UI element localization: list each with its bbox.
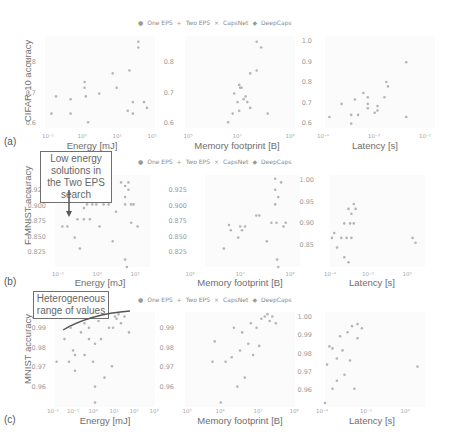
data-point [331,237,334,240]
data-point [333,232,336,235]
data-point [241,331,244,334]
data-point [367,103,370,106]
data-point [405,116,408,119]
data-point [376,105,379,108]
data-point [347,208,350,211]
data-point [94,401,97,404]
data-point [55,95,58,98]
data-point [236,101,239,104]
data-point [233,92,236,95]
data-point [249,107,252,110]
data-point [88,338,91,341]
data-point [80,331,83,334]
data-point [231,112,234,115]
data-point [108,327,111,330]
data-point [137,46,140,49]
data-point [143,101,146,104]
data-point [132,101,135,104]
data-point [353,203,356,206]
data-point [236,385,239,388]
data-point [132,203,135,206]
data-point [244,225,247,228]
data-point [387,85,390,88]
data-point [328,345,331,348]
data-point [324,402,327,405]
data-point [230,229,233,232]
data-point [124,258,127,261]
data-point [246,101,249,104]
scatter-points-layer [0,0,451,441]
data-point [351,325,354,328]
data-point [249,72,252,75]
data-point [274,188,277,191]
data-point [66,225,69,228]
data-point [276,258,279,261]
data-point [224,361,227,364]
data-point [250,322,253,325]
data-point [367,96,370,99]
data-point [124,203,127,206]
data-point [83,218,86,221]
data-point [213,340,216,343]
data-point [128,331,131,334]
data-point [280,181,283,184]
data-point [361,327,364,330]
data-point [268,320,271,323]
data-point [74,370,77,373]
data-point [255,327,258,330]
data-point [55,361,58,364]
data-point [383,96,386,99]
data-point [88,327,91,330]
data-point [136,225,139,228]
data-point [74,354,77,357]
data-point [341,349,344,352]
data-point [266,112,269,115]
data-point [111,365,114,368]
data-point [76,218,79,221]
data-point [356,323,359,326]
data-point [258,345,261,348]
data-point [350,237,353,240]
data-point [146,107,149,110]
data-point [228,224,231,227]
data-point [270,222,273,225]
data-point [258,214,261,217]
data-point [343,222,346,225]
data-point [61,225,64,228]
data-point [124,196,127,199]
data-point [350,212,353,215]
data-point [85,95,88,98]
data-point [282,225,285,228]
data-point [94,342,97,345]
data-point [87,121,90,124]
data-point [239,349,242,352]
data-point [350,122,353,125]
data-point [111,240,114,243]
data-point [242,98,245,101]
data-point [233,327,236,330]
data-point [264,315,267,318]
data-point [353,222,356,225]
data-point [252,354,255,357]
data-point [92,361,95,364]
data-point [107,203,110,206]
data-point [89,218,92,221]
data-point [343,373,346,376]
data-point [132,112,135,115]
data-point [103,376,106,379]
data-point [405,61,408,64]
data-point [127,181,130,184]
data-point [340,103,343,106]
data-point [115,211,118,214]
data-point [223,247,226,250]
data-point [346,331,349,334]
data-point [238,84,241,87]
data-point [326,363,329,366]
data-point [72,349,75,352]
data-point [362,92,365,95]
data-point [127,188,130,191]
data-point [98,225,101,228]
data-point [349,359,352,362]
data-point [69,112,72,115]
data-point [331,347,334,350]
